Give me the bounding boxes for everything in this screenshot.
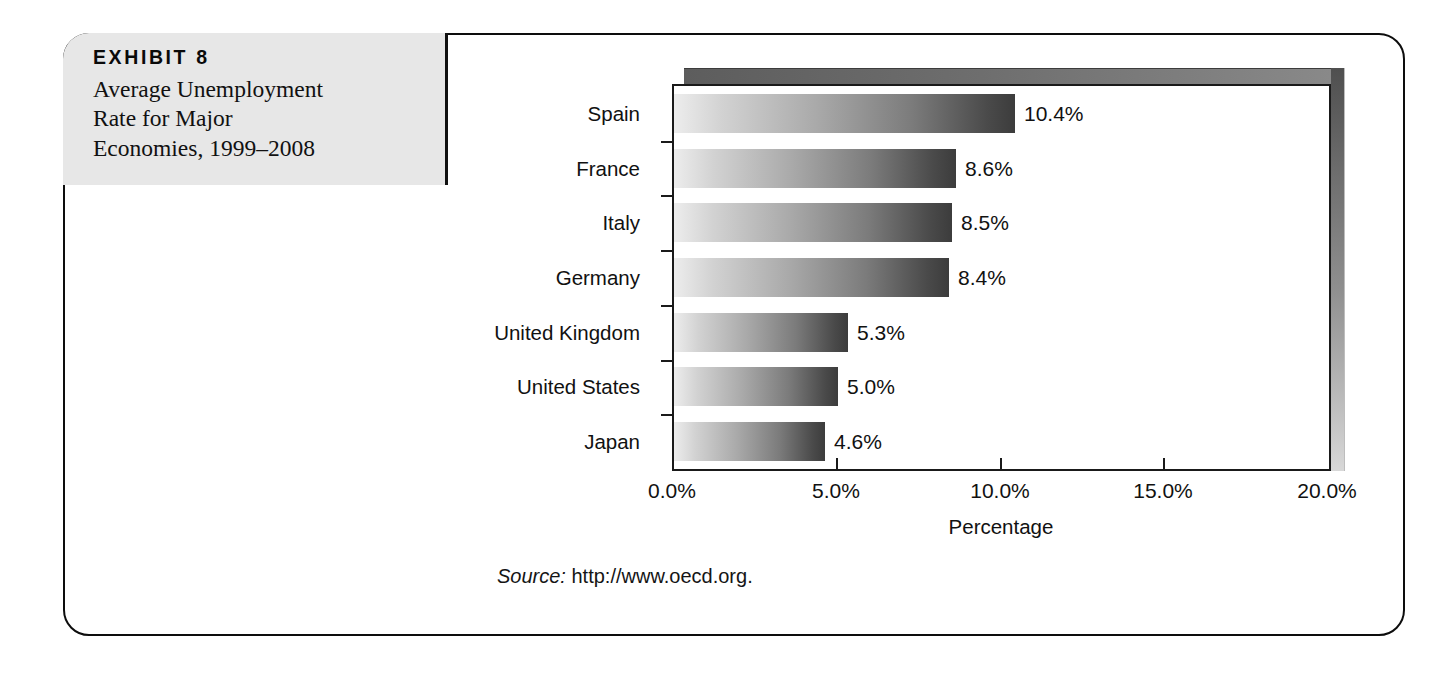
exhibit-title-line-3: Economies, 1999–2008 xyxy=(93,134,448,163)
source-label: Source: xyxy=(497,565,566,587)
exhibit-title-line-1: Average Unemployment xyxy=(93,75,448,104)
source-line: Source: http://www.oecd.org. xyxy=(497,565,753,588)
title-block-divider xyxy=(445,33,448,185)
exhibit-title-line-2: Rate for Major xyxy=(93,104,448,133)
source-url: http://www.oecd.org. xyxy=(572,565,753,587)
exhibit-title-block: EXHIBIT 8 Average Unemployment Rate for … xyxy=(63,33,448,185)
exhibit-label: EXHIBIT 8 xyxy=(93,46,448,69)
